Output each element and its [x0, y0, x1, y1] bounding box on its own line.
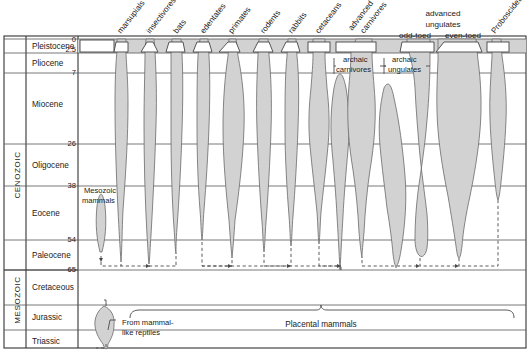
lineage-edentates	[197, 39, 210, 240]
tick-7: 7	[72, 68, 76, 77]
epoch-paleocene: Paleocene	[32, 251, 71, 260]
lineage-ancestral-stock	[95, 306, 114, 349]
callout-arch-ung-line2: ungulates	[388, 65, 421, 74]
box-adv-carnivores	[336, 42, 376, 52]
label-advanced-ungulates-group: advanced ungulates odd-toed even-toed	[399, 9, 481, 40]
box-odd-toed	[400, 42, 434, 52]
placental-bracket	[130, 305, 514, 318]
label-odd-toed: odd-toed	[399, 31, 431, 40]
label-edentates: edentates	[198, 2, 227, 36]
lineage-primates	[223, 39, 244, 258]
lineage-insectivores	[144, 39, 156, 264]
diagram-canvas: 0 2.5 7 26 38 54 65 CENOZOIC MESOZOIC Pl…	[0, 0, 530, 354]
lineage-rodents	[257, 39, 272, 252]
tick-38: 38	[68, 181, 76, 190]
time-axis-ticks: 0 2.5 7 26 38 54 65	[65, 35, 76, 274]
callout-mesozoic-line2: mammals	[82, 196, 115, 205]
label-rodents: rodents	[258, 8, 282, 35]
taxon-labels: marsupials insectivores bats edentates p…	[115, 0, 524, 35]
mammal-radiation-diagram: 0 2.5 7 26 38 54 65 CENOZOIC MESOZOIC Pl…	[0, 0, 530, 354]
epoch-oligocene: Oligocene	[32, 161, 69, 170]
epoch-pliocene: Pliocene	[32, 59, 64, 68]
epoch-cretaceous: Cretaceous	[32, 283, 74, 292]
callout-reptiles-line2: like reptiles	[122, 328, 160, 337]
callout-reptiles-line1: From mammal-	[122, 318, 174, 327]
lineage-proboscidea	[490, 39, 507, 200]
epoch-jurassic: Jurassic	[32, 313, 62, 322]
lineage-even-toed-ungulates	[437, 39, 481, 258]
callout-mesozoic-line1: Mesozoic	[84, 186, 116, 195]
label-cetaceans: cetaceans	[313, 1, 343, 36]
lineage-marsupials	[115, 39, 128, 262]
era-label-cenozoic: CENOZOIC	[13, 151, 22, 198]
lineage-cetaceans	[309, 39, 329, 244]
ancestry-connectors	[101, 200, 498, 270]
connector-arrowheads	[99, 258, 459, 268]
box-cetaceans	[308, 42, 330, 52]
label-bats: bats	[171, 18, 188, 36]
lineage-bats	[171, 39, 183, 254]
box-bats	[166, 42, 185, 52]
callout-arch-carn-line1: archaic	[343, 55, 368, 64]
box-proboscidea	[487, 42, 509, 52]
epoch-pleistocene: Pleistocene	[32, 42, 75, 51]
label-primates: primates	[226, 5, 252, 35]
epoch-triassic: Triassic	[32, 337, 60, 346]
callout-arch-ung-line1: archaic	[392, 55, 417, 64]
lineage-archaic-carnivores	[331, 74, 349, 270]
tick-54: 54	[68, 235, 76, 244]
callout-arch-carn-line2: carnivores	[336, 65, 371, 74]
box-even-toed	[436, 42, 482, 52]
lineage-archaic-ungulates	[379, 84, 406, 266]
label-proboscidea: Proboscidea	[489, 0, 524, 35]
epoch-eocene: Eocene	[32, 209, 60, 218]
bracket-label-placental: Placental mammals	[285, 320, 356, 329]
era-label-mesozoic: MESOZOIC	[13, 276, 22, 323]
box-left-blank	[80, 40, 114, 52]
label-adv-ungulates-line2: ungulates	[425, 20, 460, 29]
box-marsupials	[114, 42, 128, 52]
label-marsupials: marsupials	[115, 0, 146, 35]
tick-26: 26	[68, 139, 76, 148]
label-adv-ungulates-line1: advanced	[425, 9, 460, 18]
label-rabbits: rabbits	[286, 11, 308, 36]
epoch-miocene: Miocene	[32, 100, 63, 109]
tick-65: 65	[68, 265, 76, 274]
lineage-rabbits	[285, 39, 299, 246]
epoch-labels: Pleistocene Pliocene Miocene Oligocene E…	[32, 42, 75, 346]
label-even-toed: even-toed	[445, 31, 481, 40]
